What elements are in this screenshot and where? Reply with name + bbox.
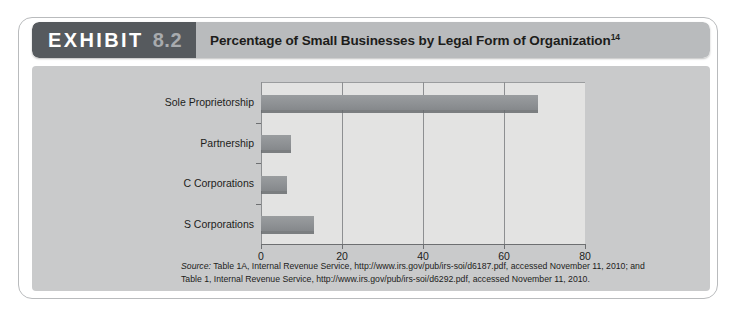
- category-label: Sole Proprietorship: [165, 96, 254, 108]
- x-axis-tick: [342, 244, 343, 249]
- source-label: Source:: [181, 261, 211, 271]
- exhibit-header: EXHIBIT 8.2 Percentage of Small Business…: [32, 22, 710, 58]
- exhibit-title-text: Percentage of Small Businesses by Legal …: [210, 33, 611, 48]
- category-label: C Corporations: [183, 177, 254, 189]
- x-axis-tick: [261, 244, 262, 249]
- x-axis-tick: [585, 244, 586, 249]
- category-label: Partnership: [200, 137, 254, 149]
- bar: [261, 135, 291, 150]
- exhibit-title-bar: Percentage of Small Businesses by Legal …: [196, 22, 710, 58]
- x-axis-tick: [504, 244, 505, 249]
- exhibit-word: EXHIBIT: [48, 29, 144, 52]
- x-axis-tick: [423, 244, 424, 249]
- y-axis-tick: [256, 204, 261, 205]
- exhibit-title: Percentage of Small Businesses by Legal …: [210, 33, 620, 48]
- bar: [261, 176, 287, 191]
- chart-plot-area: 020406080: [261, 82, 557, 248]
- source-line-1: Table 1A, Internal Revenue Service, http…: [211, 261, 645, 271]
- category-label: S Corporations: [184, 218, 254, 230]
- y-axis-tick: [256, 163, 261, 164]
- bar: [261, 95, 538, 110]
- chart-panel: Sole ProprietorshipPartnershipC Corporat…: [32, 66, 710, 291]
- exhibit-tag: EXHIBIT 8.2: [32, 22, 196, 58]
- category-label-group: Sole ProprietorshipPartnershipC Corporat…: [32, 82, 261, 248]
- exhibit-number: 8.2: [153, 29, 182, 52]
- source-line-2: Table 1, Internal Revenue Service, http:…: [181, 274, 590, 284]
- y-axis-tick: [256, 123, 261, 124]
- source-note: Source: Table 1A, Internal Revenue Servi…: [181, 260, 701, 286]
- bar: [261, 216, 314, 231]
- exhibit-title-footnote-marker: 14: [611, 31, 620, 41]
